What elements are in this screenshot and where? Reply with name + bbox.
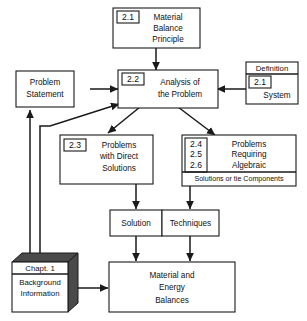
- node-problems-direct-solutions-line1: Problems: [102, 141, 137, 150]
- node-analysis-of-the-problem-line1: Analysis of: [160, 78, 200, 87]
- node-material-energy-balances: Material and Energy Balances: [109, 262, 235, 312]
- node-problem-statement: Problem Statement: [16, 71, 74, 107]
- node-definition-system: Definition 2.1 System: [246, 62, 298, 104]
- node-material-energy-balances-line1: Material and: [149, 271, 195, 280]
- node-problems-algebraic-line2: Requiring: [231, 150, 266, 159]
- node-chapter-one-header: Chapt. 1: [25, 264, 54, 273]
- node-problems-direct-solutions-line3: Solutions: [102, 164, 136, 173]
- node-material-balance-principle-tag: 2.1: [122, 12, 134, 22]
- node-problems-algebraic-tag1: 2.4: [190, 139, 202, 149]
- node-problems-algebraic-tag3: 2.6: [190, 160, 202, 170]
- node-material-balance-principle: 2.1 Material Balance Principle: [113, 8, 200, 48]
- node-chapter-one-side-face: [68, 253, 78, 312]
- node-definition-system-tag: 2.1: [254, 77, 266, 87]
- node-problems-algebraic-line3: Algebraic: [232, 161, 266, 170]
- node-problems-algebraic-tag2: 2.5: [190, 149, 202, 159]
- node-material-balance-principle-line2: Balance: [153, 24, 183, 33]
- node-problem-statement-line2: Statement: [26, 90, 64, 99]
- node-material-energy-balances-line2: Energy: [159, 283, 186, 292]
- node-definition-system-header: Definition: [256, 64, 289, 73]
- node-chapter-one-top-face: [12, 253, 78, 262]
- flowchart-canvas: 2.1 Material Balance Principle 2.2 Analy…: [0, 0, 307, 321]
- node-chapter-one-line2: Information: [20, 289, 59, 298]
- node-techniques-label: Techniques: [170, 219, 211, 228]
- node-problems-direct-solutions-tag: 2.3: [69, 140, 81, 150]
- node-problems-algebraic: 2.4 2.5 2.6 Problems Requiring Algebraic…: [182, 135, 296, 186]
- node-problems-algebraic-line1: Problems: [232, 140, 267, 149]
- node-solution-label: Solution: [121, 219, 151, 228]
- arrow-analysis-to-direct: [108, 107, 140, 133]
- node-problems-direct-solutions: 2.3 Problems with Direct Solutions: [60, 135, 153, 184]
- node-material-energy-balances-line3: Balances: [155, 296, 189, 305]
- node-definition-system-label: System: [263, 91, 290, 100]
- node-problem-statement-body: [16, 71, 74, 107]
- arrow-analysis-to-algebraic: [178, 107, 215, 135]
- node-solution-techniques-group: Solution Techniques: [110, 210, 219, 236]
- flowchart-diagram: 2.1 Material Balance Principle 2.2 Analy…: [0, 0, 307, 321]
- node-chapter-one-line1: Background: [19, 278, 61, 287]
- node-chapter-one: Chapt. 1 Background Information: [12, 253, 78, 312]
- node-material-balance-principle-line1: Material: [153, 13, 182, 22]
- node-problems-direct-solutions-line2: with Direct: [99, 152, 139, 161]
- node-material-balance-principle-line3: Principle: [152, 35, 184, 44]
- node-analysis-of-the-problem: 2.2 Analysis of the Problem: [118, 70, 218, 108]
- node-problems-algebraic-footer: Solutions or tie Components: [194, 175, 284, 183]
- node-analysis-of-the-problem-line2: the Problem: [158, 90, 202, 99]
- node-analysis-of-the-problem-tag: 2.2: [127, 74, 139, 84]
- node-problem-statement-line1: Problem: [30, 78, 61, 87]
